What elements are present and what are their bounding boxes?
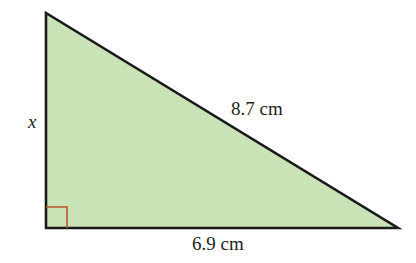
hypotenuse-label: 8.7 cm xyxy=(231,98,283,119)
vertical-side-label: x xyxy=(27,111,37,132)
triangle-diagram: x 8.7 cm 6.9 cm xyxy=(0,0,416,263)
right-triangle xyxy=(46,13,398,228)
base-label: 6.9 cm xyxy=(192,233,244,254)
